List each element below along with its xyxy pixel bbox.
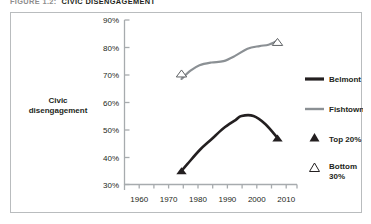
figure-number: FIGURE 1.2:	[10, 0, 57, 6]
y-tick-label: 80%	[103, 44, 119, 53]
x-tick-label: 1960	[130, 195, 148, 204]
figure-title: FIGURE 1.2:CIVIC DISENGAGEMENT	[10, 0, 155, 6]
y-tick-label: 50%	[103, 126, 119, 135]
legend-label-belmont: Belmont	[329, 75, 361, 84]
x-axis-tick-labels: 1960 1970 1980 1990 2000 2010	[130, 195, 295, 204]
y-tick-label: 60%	[103, 99, 119, 108]
figure-title-text: CIVIC DISENGAGEMENT	[62, 0, 156, 6]
legend-label-fishtown: Fishtown	[329, 105, 363, 114]
chart-frame: Civic disengagement 90% 80% 70% 60% 50% …	[10, 12, 362, 213]
series-line-belmont	[182, 115, 278, 171]
chart-plot: 90% 80% 70% 60% 50% 40% 30% 1960	[11, 13, 363, 214]
datapoint-marker-open-triangle-icon	[176, 70, 186, 77]
y-tick-label: 90%	[103, 16, 119, 25]
series-line-fishtown	[182, 41, 278, 79]
y-tick-label: 40%	[103, 154, 119, 163]
x-tick-label: 2000	[248, 195, 266, 204]
y-axis-tick-labels: 90% 80% 70% 60% 50% 40% 30%	[103, 16, 119, 190]
legend-swatch-top20-filled-triangle-icon	[310, 133, 320, 142]
chart-legend: Belmont Fishtown Top 20% Bottom 30%	[305, 75, 363, 181]
y-tick-label: 70%	[103, 71, 119, 80]
y-axis-ticks	[125, 20, 130, 185]
legend-swatch-bottom30-open-triangle-icon	[310, 163, 320, 172]
x-tick-label: 2010	[277, 195, 295, 204]
legend-label-bottom30-line1: Bottom	[329, 162, 357, 171]
x-tick-label: 1970	[160, 195, 178, 204]
x-tick-label: 1980	[189, 195, 207, 204]
x-axis-ticks	[125, 185, 298, 191]
x-tick-label: 1990	[219, 195, 237, 204]
legend-label-bottom30-line2: 30%	[329, 172, 345, 181]
legend-label-top20: Top 20%	[329, 135, 361, 144]
y-tick-label: 30%	[103, 181, 119, 190]
